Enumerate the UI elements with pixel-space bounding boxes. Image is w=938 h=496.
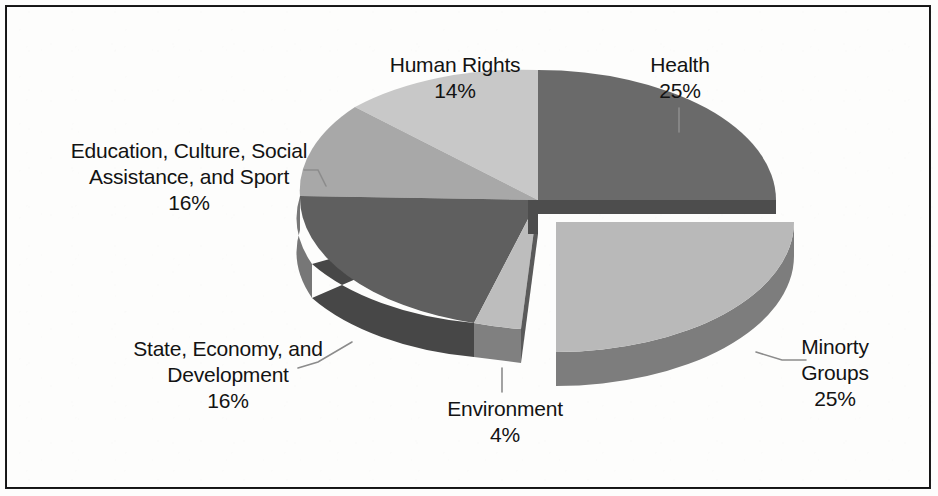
pie-label-education-name-line2: Assistance, and Sport	[48, 164, 330, 190]
pie-label-environment: Environment 4%	[412, 396, 598, 448]
pie-label-environment-name: Environment	[412, 396, 598, 422]
pie-label-minorty-groups-percent: 25%	[762, 386, 908, 412]
pie-label-minorty-groups: Minorty Groups 25%	[762, 334, 908, 412]
pie-label-education-percent: 16%	[48, 190, 330, 216]
pie-label-state-economy-name-line2: Development	[102, 362, 354, 388]
pie-chart-page: Human Rights 14% Health 25% Education, C…	[0, 0, 938, 496]
pie-label-human-rights: Human Rights 14%	[352, 52, 558, 104]
pie-label-health: Health 25%	[604, 52, 756, 104]
pie-label-state-economy-percent: 16%	[102, 388, 354, 414]
pie-label-human-rights-name: Human Rights	[352, 52, 558, 78]
pie-slice-minorty-groups-group	[556, 222, 794, 386]
pie-label-health-name: Health	[604, 52, 756, 78]
pie-label-human-rights-percent: 14%	[352, 78, 558, 104]
pie-slice-side-environment	[474, 323, 521, 363]
pie-label-minorty-groups-name-line1: Minorty	[762, 334, 908, 360]
pie-inner-cut-wall-health	[528, 200, 538, 234]
pie-label-minorty-groups-name-line2: Groups	[762, 360, 908, 386]
pie-health-front-band	[538, 200, 776, 214]
pie-label-state-economy: State, Economy, and Development 16%	[102, 336, 354, 414]
pie-slice-minorty-groups	[556, 222, 794, 352]
pie-label-health-percent: 25%	[604, 78, 756, 104]
pie-label-education-name-line1: Education, Culture, Social	[48, 138, 330, 164]
pie-label-education: Education, Culture, Social Assistance, a…	[48, 138, 330, 216]
pie-label-environment-percent: 4%	[412, 422, 598, 448]
chart-area: Human Rights 14% Health 25% Education, C…	[0, 0, 938, 496]
pie-label-state-economy-name-line1: State, Economy, and	[102, 336, 354, 362]
